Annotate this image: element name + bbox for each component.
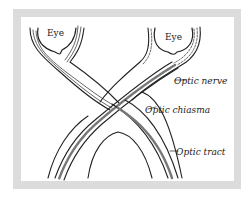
label-optic-nerve: Optic nerve (174, 76, 227, 86)
label-eye-right: Eye (165, 32, 182, 42)
optic-pathway-diagram: Eye Eye Optic nerve Optic chiasma Optic … (0, 0, 250, 197)
label-optic-chiasma: Optic chiasma (145, 105, 210, 115)
label-optic-tract: Optic tract (176, 147, 226, 157)
label-eye-left: Eye (47, 28, 64, 38)
